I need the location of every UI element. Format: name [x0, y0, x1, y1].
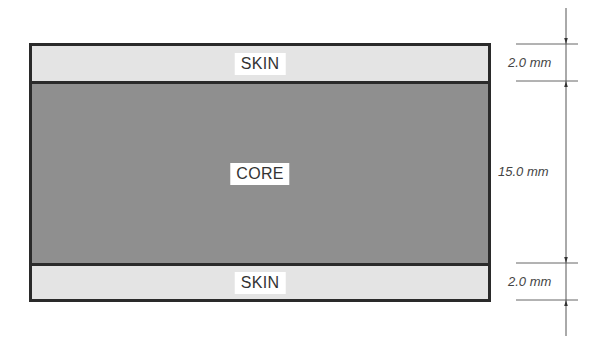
sandwich-panel-diagram: SKIN CORE SKIN	[0, 0, 604, 350]
core-dimension-label: 15.0 mm	[498, 164, 549, 179]
top-skin-dimension-label: 2.0 mm	[508, 55, 551, 70]
bottom-skin-dimension-label: 2.0 mm	[508, 274, 551, 289]
